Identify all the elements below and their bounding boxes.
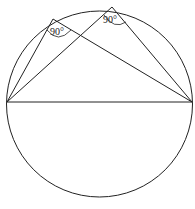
circle	[7, 11, 193, 197]
angle-label-b: 90°	[103, 14, 117, 25]
chord-right-b	[112, 7, 192, 102]
angle-label-a: 90°	[50, 26, 64, 37]
chord-right-a	[53, 19, 192, 102]
chord-left-b	[7, 7, 112, 102]
circle-theorem-diagram: 90° 90°	[0, 0, 195, 209]
chord-left-a	[7, 19, 53, 102]
